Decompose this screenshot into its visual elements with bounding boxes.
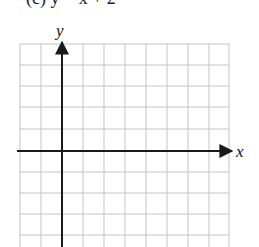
y-axis-label: y	[54, 21, 64, 40]
grid-lines	[20, 44, 229, 247]
x-axis-label: x	[235, 142, 244, 161]
coordinate-grid: x y	[0, 0, 259, 247]
